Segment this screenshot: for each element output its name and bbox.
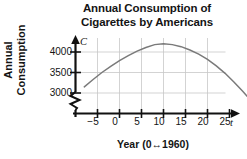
chart-figure: Annual Consumption of Cigarettes by Amer…	[0, 0, 247, 159]
chart-title-line-2: Cigarettes by Americans	[52, 16, 242, 30]
x-axis-variable-letter: t	[230, 117, 233, 128]
y-axis-label: Annual Consumption	[2, 20, 32, 100]
y-axis-label-line-2: Consumption	[15, 20, 28, 100]
y-tick-label-3000: 3000	[40, 88, 72, 98]
chart-title: Annual Consumption of Cigarettes by Amer…	[52, 2, 242, 29]
y-tick-label-4000: 4000	[40, 47, 72, 57]
y-axis-variable-letter: C	[80, 36, 87, 47]
x-axis-label: Year (0↔1960)	[78, 138, 228, 150]
y-axis-arrowhead	[71, 35, 80, 44]
y-axis-tick-labels: 4000 3500 3000	[38, 0, 72, 159]
y-axis-label-line-1: Annual	[2, 20, 15, 100]
chart-title-line-1: Annual Consumption of	[52, 2, 242, 16]
x-tick-label-25: 25	[212, 117, 238, 127]
y-tick-label-3500: 3500	[40, 68, 72, 78]
tick-marks	[70, 52, 230, 118]
